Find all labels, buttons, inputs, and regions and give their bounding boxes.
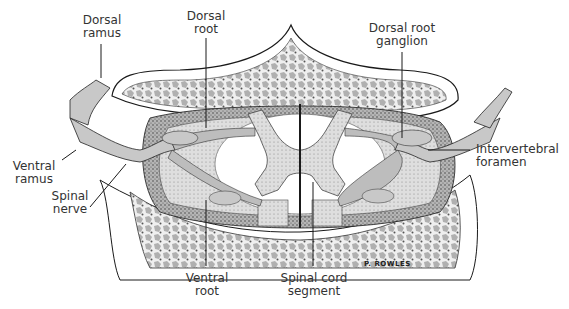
left-ventral-bulge xyxy=(209,191,241,205)
artist-signature: P. ROWLES xyxy=(364,260,411,268)
label-text: segment xyxy=(278,285,350,298)
ventral-root-left-block xyxy=(258,200,288,226)
label-spinal-cord-segment: Spinal cord segment xyxy=(278,272,350,298)
label-intervertebral-foramen: Intervertebral foramen xyxy=(476,143,568,169)
label-dorsal-root-ganglion: Dorsal root ganglion xyxy=(362,22,442,48)
leader-ventral-ramus xyxy=(62,150,76,160)
label-text: nerve xyxy=(48,203,92,216)
ventral-root-right-block xyxy=(312,200,342,226)
label-text: foramen xyxy=(476,156,568,169)
label-spinal-nerve: Spinal nerve xyxy=(48,190,92,216)
label-text: root xyxy=(180,285,234,298)
label-text: root xyxy=(176,23,236,36)
label-dorsal-ramus: Dorsal ramus xyxy=(70,14,134,40)
label-dorsal-root: Dorsal root xyxy=(176,10,236,36)
label-ventral-root: Ventral root xyxy=(180,272,234,298)
right-ventral-bulge xyxy=(362,189,394,203)
label-ventral-ramus: Ventral ramus xyxy=(10,160,58,186)
label-text: ramus xyxy=(10,173,58,186)
label-text: ramus xyxy=(70,27,134,40)
label-text: ganglion xyxy=(362,35,442,48)
spinal-cord-diagram: Dorsal ramus Dorsal root Dorsal root gan… xyxy=(0,0,569,309)
